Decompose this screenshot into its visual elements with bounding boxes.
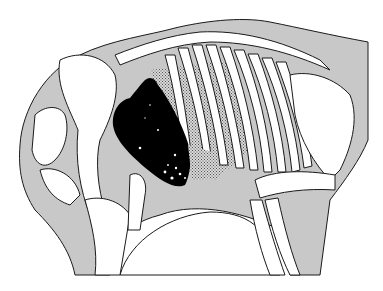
anatomical-illustration — [0, 0, 383, 291]
